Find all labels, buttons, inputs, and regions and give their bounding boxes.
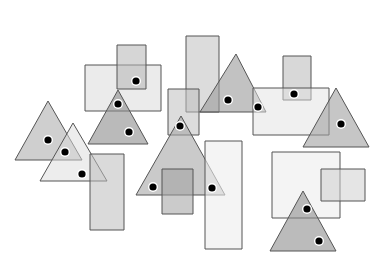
dot-marker-icon: [60, 147, 70, 157]
dot-marker-icon: [207, 183, 217, 193]
rectangle-shape: [90, 154, 124, 230]
rectangle-shape: [321, 169, 365, 201]
dot-marker-icon: [336, 119, 346, 129]
dot-marker-icon: [77, 169, 87, 179]
dot-marker-icon: [223, 95, 233, 105]
dot-marker-icon: [175, 121, 185, 131]
dot-marker-icon: [148, 182, 158, 192]
dot-marker-icon: [131, 76, 141, 86]
dot-marker-icon: [124, 127, 134, 137]
dot-marker-icon: [289, 89, 299, 99]
dot-marker-icon: [253, 102, 263, 112]
dot-marker-icon: [43, 135, 53, 145]
dot-marker-icon: [314, 236, 324, 246]
dot-marker-icon: [302, 204, 312, 214]
rectangle-shape: [162, 169, 193, 214]
dot-marker-icon: [113, 99, 123, 109]
shapes-diagram-canvas: [0, 0, 376, 254]
rectangle-shape: [205, 141, 242, 249]
